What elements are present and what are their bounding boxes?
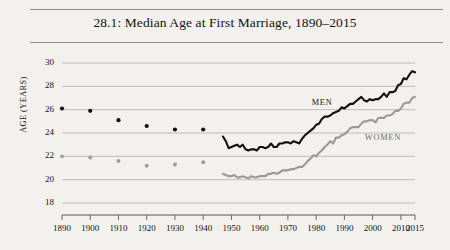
series-marker bbox=[60, 106, 64, 110]
series-marker bbox=[173, 163, 177, 167]
x-tick-marks-group bbox=[62, 215, 415, 220]
figure-container: 28.1: Median Age at First Marriage, 1890… bbox=[0, 0, 450, 250]
series-marker bbox=[201, 127, 205, 131]
y-tick-label: 22 bbox=[34, 150, 54, 160]
series-marker bbox=[145, 124, 149, 128]
series-marker bbox=[145, 164, 149, 168]
series-marker bbox=[173, 127, 177, 131]
series-marker bbox=[201, 160, 205, 164]
y-tick-label: 30 bbox=[34, 57, 54, 67]
series-marker bbox=[117, 159, 121, 163]
y-tick-label: 24 bbox=[34, 127, 54, 137]
series-marker bbox=[88, 109, 92, 113]
y-tick-label: 18 bbox=[34, 197, 54, 207]
men-series-markers bbox=[60, 106, 205, 131]
y-tick-label: 26 bbox=[34, 104, 54, 114]
y-tick-label: 28 bbox=[34, 80, 54, 90]
series-marker bbox=[88, 156, 92, 160]
gridlines-group bbox=[62, 63, 415, 203]
x-tick-label: 2015 bbox=[398, 223, 432, 233]
y-tick-label: 20 bbox=[34, 174, 54, 184]
series-label-men: MEN bbox=[312, 98, 333, 107]
chart-plot bbox=[0, 0, 450, 250]
series-label-women: WOMEN bbox=[365, 133, 401, 142]
series-marker bbox=[60, 154, 64, 158]
series-marker bbox=[116, 118, 120, 122]
